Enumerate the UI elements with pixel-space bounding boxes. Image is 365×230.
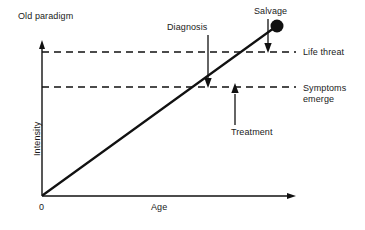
salvage-arrow	[264, 19, 271, 53]
old-paradigm-diagram: Old paradigm Diagnosis Salvage Treatment…	[0, 0, 365, 230]
diagram-canvas	[0, 0, 365, 230]
origin-label: 0	[39, 202, 44, 213]
y-axis-label: Intensity	[32, 122, 43, 156]
y-axis	[39, 40, 45, 196]
diagnosis-label: Diagnosis	[167, 22, 207, 33]
symptoms-emerge-label-line2: emerge	[303, 94, 334, 104]
x-axis	[42, 193, 296, 199]
intensity-trajectory-line	[43, 28, 274, 195]
salvage-endpoint-dot	[271, 20, 284, 33]
treatment-arrow	[231, 83, 238, 125]
symptoms-emerge-label: Symptomsemerge	[303, 83, 346, 105]
x-axis-arrowhead	[287, 193, 296, 199]
y-axis-arrowhead	[39, 40, 45, 49]
diagnosis-arrow	[204, 35, 211, 88]
treatment-arrowhead	[231, 83, 238, 93]
salvage-label: Salvage	[254, 6, 287, 17]
life-threat-label: Life threat	[303, 47, 344, 58]
diagram-title: Old paradigm	[18, 11, 73, 22]
symptoms-emerge-label-line1: Symptoms	[303, 83, 346, 93]
x-axis-label: Age	[151, 202, 167, 213]
treatment-label: Treatment	[231, 127, 273, 138]
